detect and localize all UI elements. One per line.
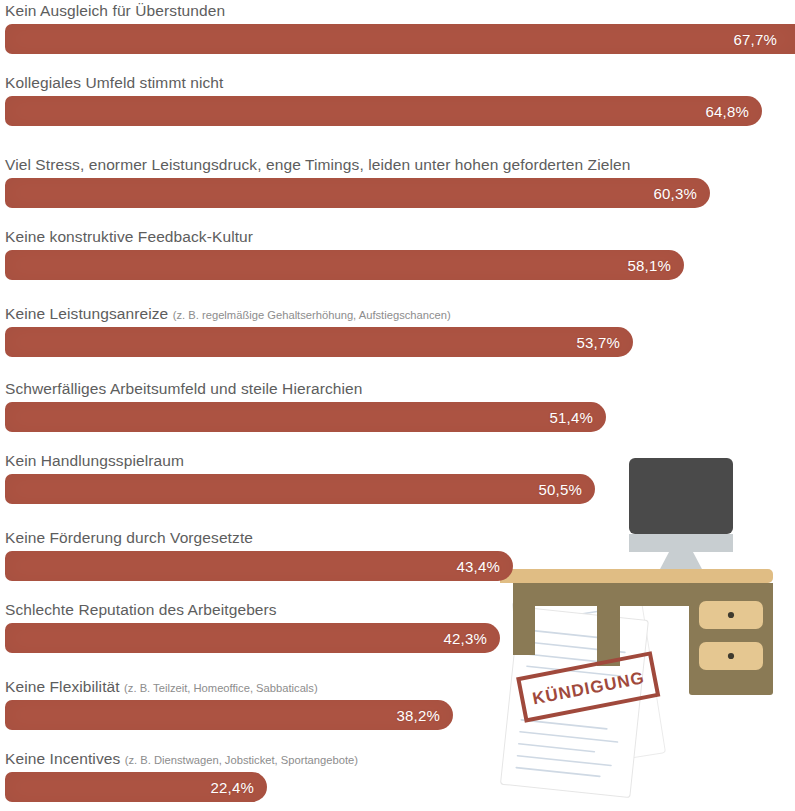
- bar-value: 43,4%: [456, 558, 500, 575]
- bar-label: Viel Stress, enormer Leistungsdruck, eng…: [5, 156, 630, 175]
- paper-back: [512, 583, 665, 773]
- bar-value: 51,4%: [549, 409, 593, 426]
- bar-value: 64,8%: [705, 103, 749, 120]
- bar: 51,4%: [5, 402, 606, 432]
- monitor-screen: [629, 458, 733, 534]
- bar-value: 42,3%: [443, 630, 487, 647]
- desk-top: [500, 569, 773, 583]
- bar: 38,2%: [5, 700, 453, 730]
- bar-value: 58,1%: [627, 257, 671, 274]
- bar-label: Schwerfälliges Arbeitsumfeld und steile …: [5, 380, 362, 399]
- bar-value: 38,2%: [396, 707, 440, 724]
- bar-label: Keine Leistungsanreize (z. B. regelmäßig…: [5, 305, 451, 324]
- bar: 64,8%: [5, 96, 762, 126]
- monitor: [629, 458, 733, 571]
- drawer-lower-knob: [728, 653, 734, 659]
- drawer-upper-knob: [728, 612, 734, 618]
- bar-label: Kein Ausgleich für Überstunden: [5, 2, 225, 21]
- bar: 43,4%: [5, 551, 513, 581]
- kuendigung-stamp: KÜNDIGUNG: [518, 653, 658, 720]
- bar: 58,1%: [5, 250, 684, 280]
- bar: 50,5%: [5, 474, 595, 504]
- drawer-lower: [699, 642, 763, 670]
- bar-value: 60,3%: [653, 185, 697, 202]
- bar-value: 53,7%: [576, 334, 620, 351]
- bar-label: Keine Flexibilität (z. B. Teilzeit, Home…: [5, 678, 318, 697]
- bar-value: 67,7%: [733, 31, 777, 48]
- stamp-text: KÜNDIGUNG: [531, 668, 646, 708]
- bar: 60,3%: [5, 178, 710, 208]
- desk: [500, 569, 773, 695]
- bar-label: Kein Handlungsspielraum: [5, 452, 184, 471]
- stamp-border: [518, 653, 658, 720]
- bar-label: Kollegiales Umfeld stimmt nicht: [5, 74, 223, 93]
- bar: 53,7%: [5, 327, 633, 357]
- drawer-upper: [699, 601, 763, 629]
- desk-leg-left: [513, 583, 535, 655]
- monitor-chin: [629, 534, 733, 552]
- bar-value: 22,4%: [210, 779, 254, 796]
- bar-value: 50,5%: [538, 481, 582, 498]
- desk-body: [513, 583, 773, 688]
- bar-label: Schlechte Reputation des Arbeitgebers: [5, 601, 277, 620]
- bar: 67,7%: [5, 24, 795, 54]
- bar-label: Keine Incentives (z. B. Dienstwagen, Job…: [5, 750, 358, 769]
- desk-pedestal: [689, 583, 773, 695]
- monitor-stand: [659, 552, 703, 571]
- paper-front: [500, 607, 648, 798]
- bar: 42,3%: [5, 623, 500, 653]
- bar-label: Keine Förderung durch Vorgesetzte: [5, 529, 253, 548]
- papers-group: [500, 583, 665, 798]
- bar-label: Keine konstruktive Feedback-Kultur: [5, 228, 253, 247]
- bar: 22,4%: [5, 772, 267, 802]
